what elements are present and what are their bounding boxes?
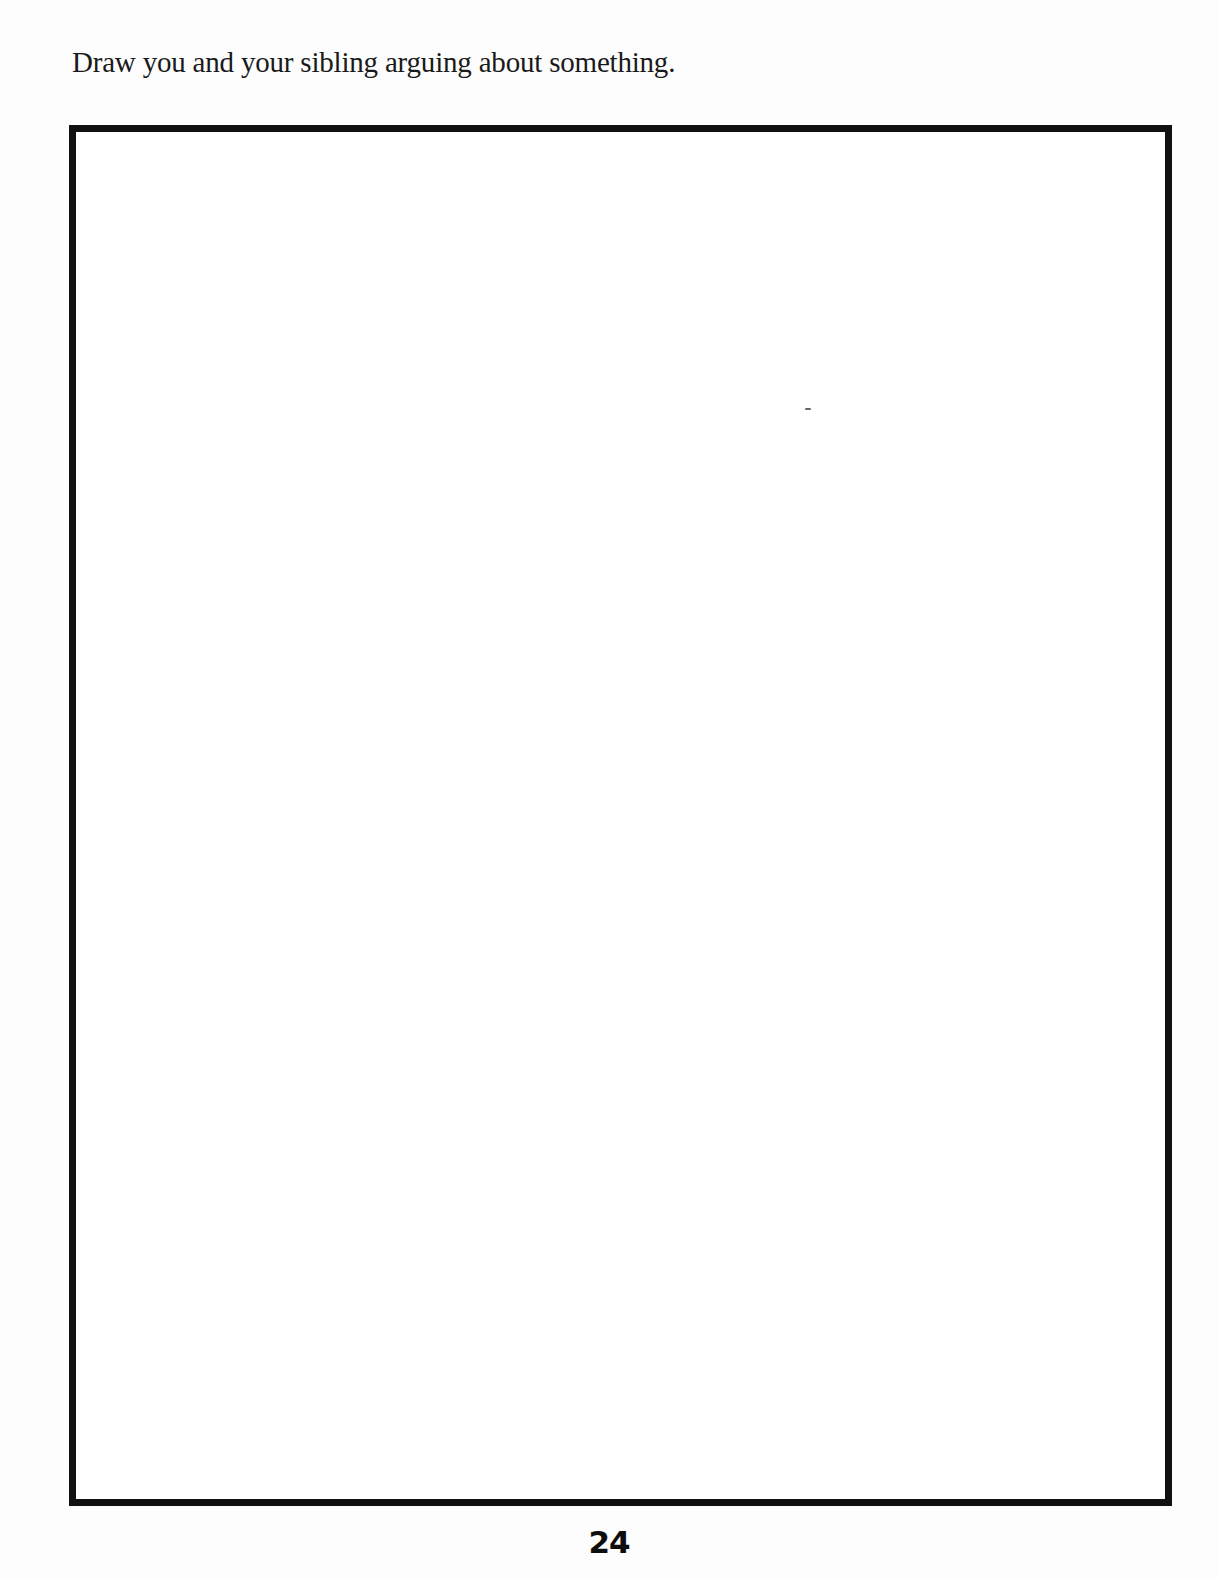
scan-speck <box>805 408 811 410</box>
instruction-text: Draw you and your sibling arguing about … <box>72 46 675 79</box>
drawing-area[interactable] <box>69 125 1172 1506</box>
page-number: 24 <box>0 1524 1218 1560</box>
